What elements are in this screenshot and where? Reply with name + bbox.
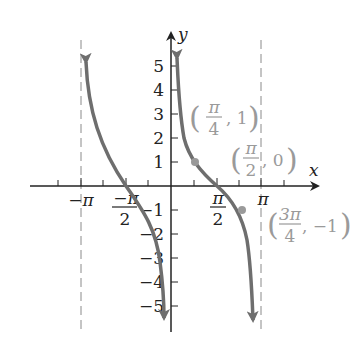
svg-text:): ) (340, 207, 352, 242)
svg-text:π: π (207, 97, 220, 117)
point-3pi-over-4 (238, 206, 246, 214)
svg-text:3π: 3π (279, 204, 302, 224)
svg-text:4: 4 (285, 226, 296, 246)
y-tick-1: 1 (153, 152, 164, 172)
point-pi-over-4 (191, 158, 199, 166)
x-tick-pi-half-den: 2 (213, 209, 224, 229)
y-tick-3: 3 (153, 104, 164, 124)
svg-text:, −1: , −1 (302, 216, 338, 236)
y-tick-2: 2 (153, 128, 164, 148)
y-axis-label: y (177, 24, 188, 44)
svg-text:): ) (286, 142, 298, 177)
svg-text:, 1: , 1 (226, 108, 248, 128)
svg-text:(: ( (267, 207, 279, 242)
annotation-pi-over-2-0: ( π 2 , 0 ) (230, 138, 298, 180)
y-tick-neg5: −5 (139, 296, 164, 316)
y-tick-5: 5 (153, 56, 164, 76)
x-tick-neg-pi: −π (68, 190, 94, 210)
svg-text:(: ( (189, 100, 201, 135)
annotation-pi-over-4-1: ( π 4 , 1 ) (189, 97, 260, 139)
svg-text:4: 4 (209, 119, 220, 139)
cotangent-graph: 5 4 3 2 1 −1 −2 −3 −4 −5 −π −π 2 π 2 π x… (0, 0, 362, 356)
x-axis-label: x (309, 160, 319, 180)
x-tick-pi: π (256, 189, 269, 209)
svg-text:, 0: , 0 (262, 150, 284, 170)
svg-text:): ) (248, 100, 260, 135)
annotation-3pi-over-4-neg1: ( 3π 4 , −1 ) (267, 204, 352, 246)
svg-text:2: 2 (246, 160, 257, 180)
x-tick-neg-pi-half-den: 2 (120, 209, 131, 229)
y-tick-4: 4 (153, 80, 164, 100)
svg-text:(: ( (230, 142, 242, 177)
svg-text:π: π (244, 138, 257, 158)
